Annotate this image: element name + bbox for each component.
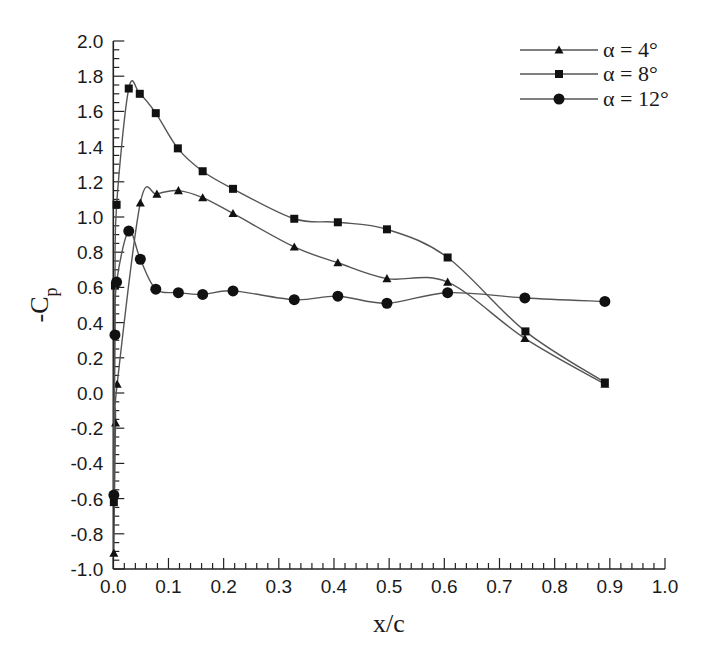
data-point-circle-marker	[197, 289, 208, 300]
x-tick-label: 0.3	[266, 576, 292, 597]
data-point-square-marker	[174, 144, 182, 152]
legend-item: α = 12°	[520, 86, 669, 111]
data-point-square-marker	[383, 225, 391, 233]
data-point-square-marker	[229, 185, 237, 193]
legend-circle-marker	[554, 94, 565, 105]
y-tick-label: 1.4	[77, 137, 104, 158]
data-point-square-marker	[290, 215, 298, 223]
data-point-square-marker	[601, 378, 609, 386]
series-circle	[108, 226, 610, 501]
x-tick-label: 0.9	[597, 576, 623, 597]
cp-distribution-chart: 2.01.81.61.41.21.00.80.60.40.20.0-0.2-0.…	[0, 0, 701, 648]
data-point-triangle-marker	[198, 193, 207, 201]
y-tick-label: 0.0	[77, 383, 103, 404]
data-point-square-marker	[334, 218, 342, 226]
data-point-square-marker	[136, 90, 144, 98]
data-point-circle-marker	[173, 287, 184, 298]
plot-area	[108, 81, 610, 557]
y-tick-label: 1.2	[77, 172, 103, 193]
series-line	[114, 81, 605, 502]
data-point-circle-marker	[381, 298, 392, 309]
x-tick-label: 0.6	[431, 576, 457, 597]
y-tick-label: 0.2	[77, 348, 103, 369]
data-point-circle-marker	[135, 254, 146, 265]
series-triangle	[109, 186, 609, 557]
x-tick-label: 1.0	[652, 576, 678, 597]
data-point-circle-marker	[332, 291, 343, 302]
data-point-triangle-marker	[109, 549, 118, 557]
data-point-square-marker	[521, 327, 529, 335]
x-tick-label: 0.1	[155, 576, 181, 597]
y-tick-label: 0.6	[77, 277, 103, 298]
y-tick-label: -0.8	[71, 524, 104, 545]
data-point-square-marker	[113, 201, 121, 209]
x-tick-label: 0.5	[376, 576, 402, 597]
y-axis-title: -Cp	[25, 288, 61, 323]
data-point-circle-marker	[150, 284, 161, 295]
data-point-triangle-marker	[290, 242, 299, 250]
x-tick-label: 0.4	[321, 576, 348, 597]
legend-label: α = 4°	[603, 37, 658, 62]
data-point-circle-marker	[109, 329, 120, 340]
data-point-triangle-marker	[443, 278, 452, 286]
y-axis-title-main: -C	[25, 297, 54, 323]
data-point-circle-marker	[289, 294, 300, 305]
legend: α = 4°α = 8°α = 12°	[520, 37, 669, 111]
y-tick-label: 0.8	[77, 242, 103, 263]
data-point-square-marker	[152, 109, 160, 117]
legend-label: α = 12°	[603, 86, 669, 111]
x-tick-label: 0.2	[210, 576, 236, 597]
data-point-square-marker	[199, 167, 207, 175]
y-tick-label: -1.0	[71, 559, 104, 580]
x-tick-label: 0.7	[486, 576, 512, 597]
data-point-circle-marker	[599, 296, 610, 307]
y-tick-label: -0.2	[71, 418, 104, 439]
x-tick-label: 0.8	[541, 576, 567, 597]
legend-item: α = 8°	[520, 61, 658, 86]
data-point-circle-marker	[123, 226, 134, 237]
y-tick-label: 1.0	[77, 207, 103, 228]
data-point-square-marker	[125, 85, 133, 93]
data-point-triangle-marker	[229, 209, 238, 217]
data-point-circle-marker	[111, 277, 122, 288]
y-axis-title-subscript: p	[41, 288, 61, 297]
axes: 2.01.81.61.41.21.00.80.60.40.20.0-0.2-0.…	[71, 31, 679, 597]
svg-text:-Cp: -Cp	[25, 288, 61, 323]
data-point-circle-marker	[228, 285, 239, 296]
legend-square-marker	[555, 70, 563, 78]
data-point-circle-marker	[519, 292, 530, 303]
data-point-circle-marker	[108, 490, 119, 501]
x-tick-label: 0.0	[100, 576, 126, 597]
y-tick-label: 1.6	[77, 101, 103, 122]
data-point-square-marker	[444, 253, 452, 261]
y-tick-label: 2.0	[77, 31, 103, 52]
y-tick-label: -0.4	[71, 453, 104, 474]
y-tick-label: -0.6	[71, 489, 104, 510]
y-tick-label: 0.4	[77, 313, 104, 334]
legend-label: α = 8°	[603, 61, 658, 86]
data-point-circle-marker	[442, 287, 453, 298]
x-axis-title: x/c	[373, 609, 405, 638]
legend-item: α = 4°	[520, 37, 658, 62]
series-line	[114, 187, 605, 553]
data-point-triangle-marker	[136, 198, 145, 206]
y-tick-label: 1.8	[77, 66, 103, 87]
